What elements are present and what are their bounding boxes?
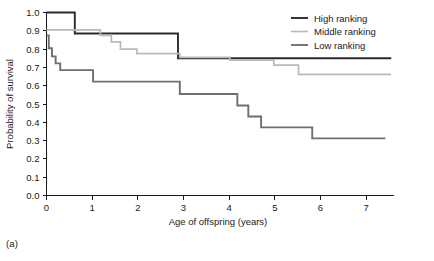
x-tick-label: 5 xyxy=(272,202,277,213)
x-tick-label: 0 xyxy=(44,202,49,213)
legend-label-low-ranking: Low ranking xyxy=(314,40,365,51)
y-tick-label: 0.6 xyxy=(26,80,39,91)
y-tick-label: 0.9 xyxy=(26,25,39,36)
x-tick-label: 7 xyxy=(363,202,368,213)
curve-low-ranking xyxy=(47,35,386,138)
y-tick-label: 0.2 xyxy=(26,153,39,164)
chart-svg: 0.00.10.20.30.40.50.60.70.80.91.0 012345… xyxy=(0,0,434,261)
x-tick-label: 2 xyxy=(135,202,140,213)
y-tick-label: 1.0 xyxy=(26,7,39,18)
y-tick-label: 0.3 xyxy=(26,135,39,146)
x-tick-label: 3 xyxy=(181,202,186,213)
x-tick-label: 6 xyxy=(318,202,323,213)
x-axis-title: Age of offspring (years) xyxy=(169,216,268,227)
legend-label-middle-ranking: Middle ranking xyxy=(314,26,376,37)
y-tick-label: 0.0 xyxy=(26,190,39,201)
y-axis-tick-labels: 0.00.10.20.30.40.50.60.70.80.91.0 xyxy=(26,7,39,201)
y-tick-label: 0.1 xyxy=(26,172,39,183)
survival-curve-figure: 0.00.10.20.30.40.50.60.70.80.91.0 012345… xyxy=(0,0,434,261)
chart-legend: High rankingMiddle rankingLow ranking xyxy=(291,13,376,51)
x-axis-tick-labels: 01234567 xyxy=(44,202,369,213)
y-tick-label: 0.4 xyxy=(26,117,39,128)
panel-label: (a) xyxy=(6,238,18,249)
legend-label-high-ranking: High ranking xyxy=(314,13,367,24)
x-tick-label: 1 xyxy=(90,202,95,213)
y-tick-label: 0.8 xyxy=(26,44,39,55)
x-tick-label: 4 xyxy=(226,202,231,213)
y-tick-label: 0.7 xyxy=(26,62,39,73)
y-tick-label: 0.5 xyxy=(26,99,39,110)
y-axis-title: Probability of survival xyxy=(4,59,15,149)
